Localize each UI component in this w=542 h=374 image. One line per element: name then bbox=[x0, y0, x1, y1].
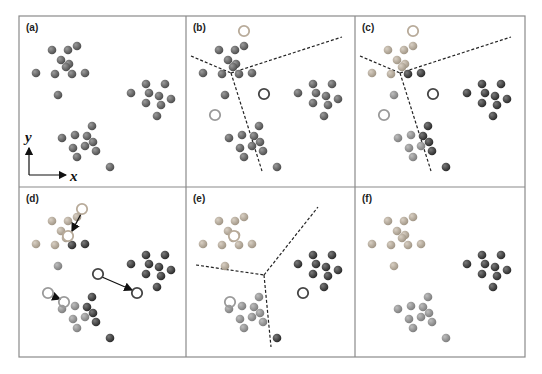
data-point bbox=[73, 153, 82, 162]
data-point bbox=[417, 142, 426, 151]
data-point bbox=[218, 70, 227, 79]
data-point bbox=[405, 144, 414, 153]
data-point bbox=[409, 42, 418, 51]
data-point bbox=[491, 263, 500, 272]
data-point bbox=[309, 270, 318, 279]
data-point bbox=[48, 46, 57, 55]
data-point bbox=[442, 334, 451, 343]
data-point bbox=[481, 260, 490, 269]
data-point bbox=[88, 293, 97, 302]
panel-label: (d) bbox=[26, 193, 39, 204]
data-point bbox=[417, 313, 426, 322]
data-point bbox=[248, 313, 257, 322]
data-point bbox=[255, 293, 264, 302]
data-point bbox=[294, 89, 303, 98]
data-point bbox=[398, 234, 407, 243]
data-point bbox=[328, 251, 337, 260]
data-point bbox=[167, 266, 176, 275]
data-point bbox=[404, 241, 413, 250]
data-point bbox=[231, 46, 240, 55]
centroid-marker bbox=[229, 231, 239, 241]
data-point bbox=[463, 89, 472, 98]
data-point bbox=[478, 99, 487, 108]
data-point bbox=[71, 131, 80, 140]
data-point bbox=[62, 63, 71, 72]
data-point bbox=[497, 251, 506, 260]
data-point bbox=[387, 70, 396, 79]
panel-label: (f) bbox=[362, 193, 372, 204]
data-point bbox=[221, 262, 230, 271]
data-point bbox=[491, 92, 500, 101]
data-point bbox=[400, 217, 409, 226]
data-point bbox=[409, 153, 418, 162]
panel-label: (c) bbox=[362, 22, 374, 33]
data-point bbox=[384, 46, 393, 55]
data-point bbox=[238, 131, 247, 140]
data-point bbox=[142, 270, 151, 279]
data-point bbox=[489, 112, 498, 121]
data-point bbox=[256, 309, 265, 318]
data-point bbox=[334, 95, 343, 104]
data-point bbox=[127, 89, 136, 98]
data-point bbox=[478, 270, 487, 279]
data-point bbox=[503, 266, 512, 275]
data-point bbox=[407, 302, 416, 311]
data-point bbox=[309, 99, 318, 108]
data-point bbox=[328, 80, 337, 89]
data-point bbox=[273, 163, 282, 172]
data-point bbox=[390, 91, 399, 100]
data-point bbox=[312, 89, 321, 98]
data-point bbox=[142, 251, 151, 260]
data-point bbox=[69, 315, 78, 324]
data-point bbox=[155, 92, 164, 101]
data-point bbox=[81, 142, 90, 151]
data-point bbox=[89, 138, 98, 147]
data-point bbox=[51, 70, 60, 79]
centroid-marker bbox=[77, 204, 87, 214]
data-point bbox=[71, 302, 80, 311]
data-point bbox=[235, 241, 244, 250]
data-point bbox=[229, 63, 238, 72]
data-point bbox=[64, 46, 73, 55]
data-point bbox=[88, 122, 97, 131]
data-point bbox=[153, 283, 162, 292]
data-point bbox=[225, 134, 234, 143]
data-point bbox=[240, 42, 249, 51]
data-point bbox=[89, 309, 98, 318]
data-point bbox=[322, 92, 331, 101]
data-point bbox=[309, 251, 318, 260]
data-point bbox=[236, 144, 245, 153]
data-point bbox=[425, 138, 434, 147]
data-point bbox=[398, 63, 407, 72]
data-point bbox=[69, 144, 78, 153]
data-point bbox=[224, 56, 233, 65]
data-point bbox=[393, 227, 402, 236]
data-point bbox=[478, 251, 487, 260]
data-point bbox=[58, 134, 67, 143]
data-point bbox=[153, 112, 162, 121]
data-point bbox=[417, 240, 426, 249]
data-point bbox=[405, 315, 414, 324]
data-point bbox=[294, 260, 303, 269]
data-point bbox=[400, 46, 409, 55]
data-point bbox=[73, 42, 82, 51]
data-point bbox=[481, 89, 490, 98]
data-point bbox=[409, 324, 418, 333]
data-point bbox=[259, 147, 268, 156]
data-point bbox=[428, 318, 437, 327]
data-point bbox=[218, 241, 227, 250]
data-point bbox=[106, 163, 115, 172]
data-point bbox=[145, 260, 154, 269]
data-point bbox=[142, 80, 151, 89]
data-point bbox=[231, 217, 240, 226]
data-point bbox=[142, 99, 151, 108]
panel-label: (a) bbox=[26, 22, 38, 33]
data-point bbox=[248, 240, 257, 249]
data-point bbox=[161, 251, 170, 260]
data-point bbox=[215, 46, 224, 55]
data-point bbox=[54, 91, 63, 100]
data-point bbox=[368, 69, 377, 78]
data-point bbox=[73, 324, 82, 333]
data-point bbox=[393, 56, 402, 65]
data-point bbox=[54, 262, 63, 271]
